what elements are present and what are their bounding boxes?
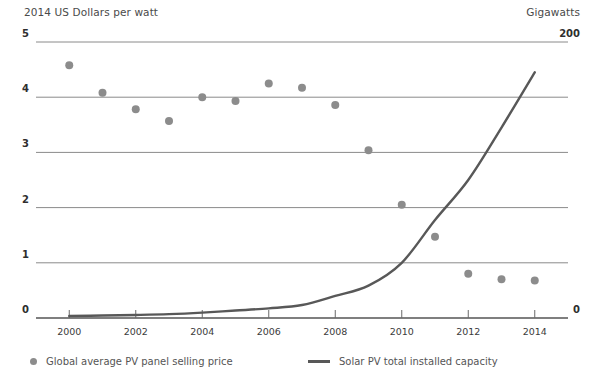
x-axis-tick-label: 2004 [190,326,214,337]
scatter-point [132,105,140,113]
left-axis-tick-label: 3 [22,138,29,149]
scatter-point [198,93,206,101]
legend-item-solar-capacity[interactable]: Solar PV total installed capacity [308,356,498,367]
left-axis-tick-label: 5 [22,28,29,39]
scatter-point [99,89,107,97]
scatter-point [165,117,173,125]
x-axis-tick-label: 2010 [390,326,414,337]
legend-label-panel-price: Global average PV panel selling price [46,356,233,367]
scatter-series-panel-price [65,61,539,284]
left-axis-tick-label: 1 [22,249,29,260]
chart-plot-area [0,0,602,379]
x-axis-tick-label: 2002 [124,326,148,337]
scatter-point [298,84,306,92]
scatter-point [498,275,506,283]
right-axis-tick-label: 200 [559,28,580,39]
right-axis-title: Gigawatts [526,6,580,18]
line-marker-icon [308,360,330,363]
scatter-point [431,233,439,241]
left-axis-tick-label: 2 [22,194,29,205]
x-axis-tick-label: 2012 [456,326,480,337]
left-axis-tick-label: 4 [22,83,29,94]
scatter-point [398,201,406,209]
scatter-point [365,146,373,154]
legend-label-solar-capacity: Solar PV total installed capacity [339,356,498,367]
dot-marker-icon [30,358,37,365]
x-axis-tick-label: 2006 [257,326,281,337]
x-axis-tick-label: 2008 [323,326,347,337]
left-axis-tick-label: 0 [22,304,29,315]
scatter-point [265,79,273,87]
scatter-point [331,101,339,109]
left-axis-title: 2014 US Dollars per watt [24,6,158,18]
legend-item-panel-price[interactable]: Global average PV panel selling price [30,356,233,367]
scatter-point [65,61,73,69]
x-axis-tick-label: 2014 [523,326,547,337]
chart-container: 2014 US Dollars per watt Gigawatts 01234… [0,0,602,379]
scatter-point [464,270,472,278]
right-axis-tick-label: 0 [573,304,580,315]
scatter-point [232,97,240,105]
scatter-point [531,276,539,284]
x-axis-tick-label: 2000 [57,326,81,337]
gridline-group [36,42,568,318]
